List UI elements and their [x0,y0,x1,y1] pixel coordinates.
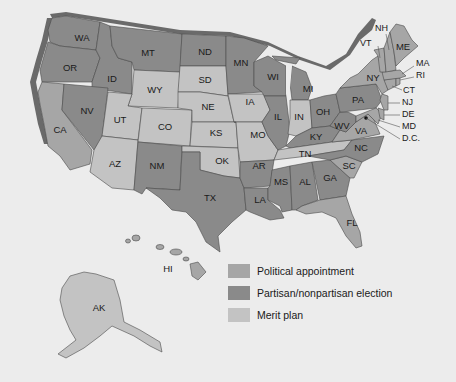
legend-swatch-election [228,286,250,300]
label-ma: MA [416,58,430,68]
label-ky: KY [310,131,323,142]
label-va: VA [355,125,368,136]
label-de: DE [402,109,415,119]
label-vt: VT [360,38,372,48]
label-sc: SC [342,160,355,171]
legend-item-political-appointment: Political appointment [228,260,392,282]
label-wi: WI [267,71,279,82]
label-ri: RI [416,70,425,80]
label-wa: WA [75,32,91,43]
label-in: IN [294,111,304,122]
label-nd: ND [198,46,212,57]
state-ak[interactable] [58,272,162,358]
label-id: ID [107,73,117,84]
label-me: ME [396,41,410,52]
label-ga: GA [323,172,337,183]
leader-ct [392,86,402,90]
label-ia: IA [246,96,256,107]
label-nh: NH [375,23,388,33]
label-mi: MI [303,83,314,94]
label-sd: SD [198,74,211,85]
map-legend: Political appointment Partisan/nonpartis… [228,260,392,326]
label-wv: WV [334,120,350,131]
state-nj[interactable] [380,94,388,110]
state-ri[interactable] [396,78,400,86]
label-il: IL [274,111,282,122]
label-tx: TX [204,192,217,203]
label-nj: NJ [402,97,413,107]
legend-item-election: Partisan/nonpartisan election [228,282,392,304]
label-pa: PA [352,94,365,105]
label-nm: NM [150,160,165,171]
label-dc: D.C. [402,133,420,143]
label-or: OR [63,62,77,73]
leader-ma [402,66,414,74]
leader-md [378,120,400,127]
label-ne: NE [201,101,214,112]
legend-label: Political appointment [257,265,354,277]
label-ks: KS [210,127,223,138]
label-wy: WY [147,84,163,95]
label-tn: TN [299,148,312,159]
label-ca: CA [53,124,67,135]
label-mn: MN [234,57,249,68]
legend-label: Merit plan [257,309,303,321]
legend-swatch-political-appointment [228,264,250,278]
legend-swatch-merit-plan [228,308,250,322]
label-co: CO [158,121,172,132]
label-nc: NC [354,142,368,153]
label-mo: MO [250,129,265,140]
label-ak: AK [93,302,106,313]
legend-item-merit-plan: Merit plan [228,304,392,326]
label-hi: HI [163,263,173,274]
label-nv: NV [80,105,94,116]
label-az: AZ [109,158,121,169]
label-ut: UT [114,114,127,125]
label-ms: MS [274,176,288,187]
label-mt: MT [141,47,155,58]
label-al: AL [299,176,311,187]
label-la: LA [254,194,266,205]
label-oh: OH [316,106,330,117]
label-ok: OK [215,155,229,166]
label-ny: NY [366,72,380,83]
label-md: MD [402,121,416,131]
label-fl: FL [346,217,357,228]
label-ar: AR [252,160,265,171]
legend-label: Partisan/nonpartisan election [257,287,392,299]
label-ct: CT [403,85,415,95]
